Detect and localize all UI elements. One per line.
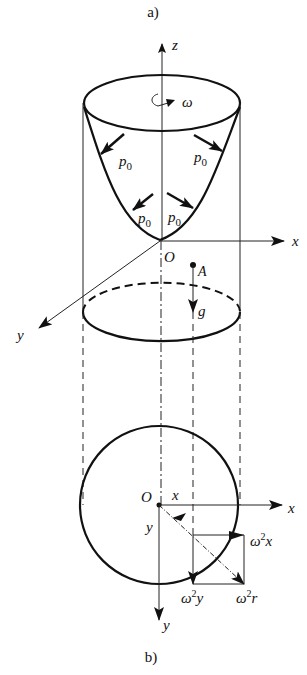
accel-y-label: ω2y	[181, 588, 204, 606]
y-axis-label: y	[15, 327, 24, 343]
y-axis-label-b: y	[161, 617, 170, 633]
rotation-arrowhead-icon	[166, 99, 175, 107]
pressure-arrow	[167, 193, 193, 208]
x-axis-label-b: x	[287, 500, 295, 516]
omega-label: ω	[182, 94, 193, 110]
coord-y-label: y	[144, 519, 153, 535]
accel-x-label: ω2x	[250, 531, 273, 549]
part-b-top-view: O x x y y ω2x ω2y ω2r	[80, 426, 295, 633]
caption-b: b)	[145, 649, 158, 666]
accel-x-arrowhead	[229, 531, 244, 540]
pressure-label: p0	[193, 149, 208, 168]
gravity-label: g	[198, 303, 206, 319]
accel-r-label: ω2r	[236, 588, 258, 606]
pressure-label: p0	[118, 153, 133, 172]
z-axis-label: z	[171, 37, 178, 53]
origin-label: O	[164, 249, 175, 265]
point-a-label: A	[197, 264, 207, 279]
pressure-arrow	[133, 194, 153, 210]
coord-x-label: x	[171, 487, 179, 503]
caption-a: a)	[147, 4, 159, 21]
pressure-label: p0	[167, 209, 182, 228]
rotating-fluid-diagram: a) z ω p0 p0 p0 p0 x y O	[0, 0, 307, 675]
pressure-arrow	[101, 134, 124, 154]
rotation-arrow-icon	[152, 94, 168, 106]
tangential-arrow-icon	[172, 513, 186, 521]
projection-lines	[83, 241, 240, 535]
part-a-cylinder: z ω p0 p0 p0 p0 x y O A g	[15, 37, 299, 343]
origin-label-b: O	[141, 489, 152, 505]
x-axis-label: x	[291, 233, 299, 249]
